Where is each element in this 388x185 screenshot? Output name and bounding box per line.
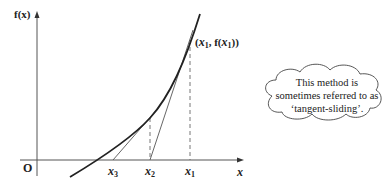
tick-label-x1: x1 — [185, 165, 195, 179]
y-axis — [35, 11, 40, 176]
x-axis-label: x — [237, 166, 243, 178]
x-axis-arrow-icon — [237, 158, 244, 163]
cloud-note: This method is sometimes referred to as … — [268, 76, 386, 115]
tick-label-x3: x3 — [108, 165, 118, 179]
tangent-at-x1 — [150, 30, 193, 160]
y-axis-arrow-icon — [35, 11, 40, 18]
tick-label-x2: x2 — [145, 165, 155, 179]
function-curve — [70, 14, 200, 177]
note-line-2: sometimes referred to as — [268, 89, 386, 102]
point-label: (x1, f(x1)) — [195, 36, 239, 50]
x-axis — [20, 158, 244, 163]
y-axis-label: f(x) — [14, 9, 31, 20]
origin-label: O — [23, 162, 32, 174]
note-line-3: ‘tangent-sliding’. — [268, 102, 386, 115]
note-line-1: This method is — [268, 76, 386, 89]
